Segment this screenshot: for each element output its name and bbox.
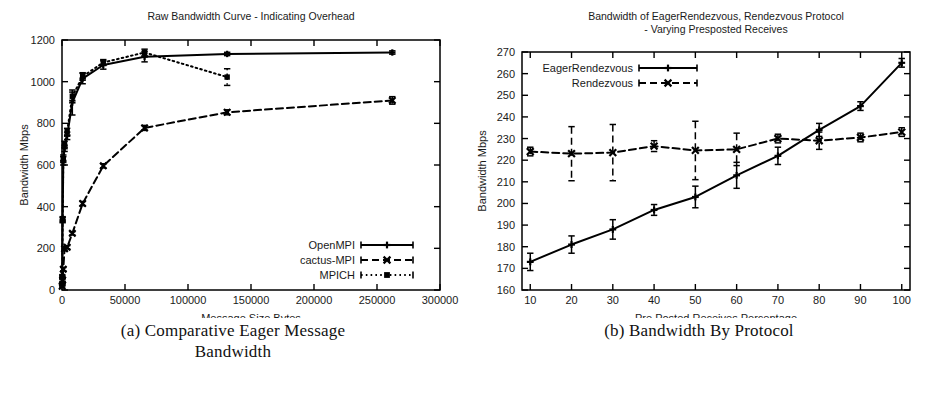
x-tick-label: 70 bbox=[772, 294, 784, 306]
x-axis-title: Pre Posted Receives Percentage bbox=[635, 312, 797, 318]
series-line bbox=[530, 63, 901, 262]
legend: EagerRendezvousRendezvous bbox=[542, 62, 697, 89]
x-tick-label: 10 bbox=[524, 294, 536, 306]
x-axis: 102030405060708090100 bbox=[524, 52, 911, 306]
x-tick-label: 80 bbox=[813, 294, 825, 306]
y-tick-label: 220 bbox=[497, 154, 515, 166]
legend-label-1: cactus-MPI bbox=[300, 254, 355, 266]
y-axis-title: Bandwidth Mbps bbox=[18, 124, 30, 206]
legend-label-2: MPICH bbox=[320, 269, 356, 281]
marker-square bbox=[224, 74, 229, 79]
x-tick-label: 0 bbox=[59, 294, 65, 306]
x-tick-label: 40 bbox=[648, 294, 660, 306]
x-tick-label: 100000 bbox=[170, 294, 207, 306]
marker-square bbox=[80, 74, 85, 79]
y-axis-title: Bandwidth Mbps bbox=[476, 130, 488, 212]
x-tick-label: 50 bbox=[689, 294, 701, 306]
y-tick-label: 400 bbox=[37, 201, 55, 213]
chart-a-plot-area: Raw Bandwidth Curve - Indicating Overhea… bbox=[0, 0, 466, 318]
legend-label-0: EagerRendezvous bbox=[542, 62, 633, 74]
caption-a-line-2: Bandwidth bbox=[33, 341, 433, 362]
marker-square bbox=[142, 50, 147, 55]
chart-a-svg: Raw Bandwidth Curve - Indicating Overhea… bbox=[0, 0, 466, 318]
chart-subtitle: - Varying Presposted Receives bbox=[644, 23, 787, 35]
marker-square bbox=[101, 60, 106, 65]
subfigure-b: Bandwidth of EagerRendezvous, Rendezvous… bbox=[466, 0, 932, 400]
y-tick-label: 160 bbox=[497, 284, 515, 296]
series-eagerrendezvous bbox=[527, 58, 905, 270]
chart-title: Bandwidth of EagerRendezvous, Rendezvous… bbox=[588, 10, 844, 22]
x-tick-label: 250000 bbox=[359, 294, 396, 306]
y-tick-label: 260 bbox=[497, 68, 515, 80]
x-tick-label: 90 bbox=[854, 294, 866, 306]
y-tick-label: 1000 bbox=[31, 76, 55, 88]
legend-label-0: OpenMPI bbox=[309, 239, 355, 251]
series-line bbox=[62, 53, 227, 284]
y-axis: 160170180190200210220230240250260270 bbox=[497, 46, 910, 296]
series-rendezvous bbox=[527, 121, 905, 180]
y-tick-label: 0 bbox=[49, 284, 55, 296]
marker-square bbox=[60, 274, 65, 279]
chart-title: Raw Bandwidth Curve - Indicating Overhea… bbox=[147, 10, 354, 22]
y-tick-label: 200 bbox=[497, 197, 515, 209]
series-mpich bbox=[59, 49, 230, 286]
x-tick-label: 30 bbox=[607, 294, 619, 306]
y-tick-label: 270 bbox=[497, 46, 515, 58]
chart-b-plot-area: Bandwidth of EagerRendezvous, Rendezvous… bbox=[466, 0, 932, 318]
x-tick-label: 200000 bbox=[296, 294, 333, 306]
x-axis: 050000100000150000200000250000300000 bbox=[59, 40, 458, 306]
caption-b: (b) Bandwidth By Protocol bbox=[499, 320, 899, 341]
y-tick-label: 180 bbox=[497, 241, 515, 253]
y-tick-label: 210 bbox=[497, 176, 515, 188]
marker-square bbox=[70, 94, 75, 99]
figure-row: Raw Bandwidth Curve - Indicating Overhea… bbox=[0, 0, 932, 400]
marker-square bbox=[384, 272, 390, 278]
x-tick-label: 50000 bbox=[110, 294, 141, 306]
caption-a-line-1: (a) Comparative Eager Message bbox=[33, 320, 433, 341]
y-tick-label: 190 bbox=[497, 219, 515, 231]
x-tick-label: 100 bbox=[893, 294, 911, 306]
marker-square bbox=[61, 156, 66, 161]
marker-square bbox=[62, 141, 67, 146]
marker-square bbox=[59, 281, 64, 286]
y-tick-label: 170 bbox=[497, 262, 515, 274]
y-tick-label: 800 bbox=[37, 117, 55, 129]
x-tick-label: 20 bbox=[565, 294, 577, 306]
series-line bbox=[530, 132, 901, 154]
y-tick-label: 240 bbox=[497, 111, 515, 123]
x-tick-label: 300000 bbox=[422, 294, 459, 306]
legend-label-1: Rendezvous bbox=[572, 77, 634, 89]
y-tick-label: 200 bbox=[37, 242, 55, 254]
y-tick-label: 230 bbox=[497, 133, 515, 145]
chart-b-svg: Bandwidth of EagerRendezvous, Rendezvous… bbox=[466, 0, 932, 318]
caption-a: (a) Comparative Eager Message Bandwidth bbox=[33, 320, 433, 363]
x-tick-label: 150000 bbox=[233, 294, 270, 306]
y-tick-label: 1200 bbox=[31, 34, 55, 46]
x-axis-title: Message Size Bytes bbox=[201, 312, 301, 318]
x-tick-label: 60 bbox=[731, 294, 743, 306]
legend: OpenMPIcactus-MPIMPICH bbox=[300, 239, 413, 281]
subfigure-a: Raw Bandwidth Curve - Indicating Overhea… bbox=[0, 0, 466, 400]
caption-b-line-1: (b) Bandwidth By Protocol bbox=[499, 320, 899, 341]
marker-square bbox=[64, 129, 69, 134]
plot-frame bbox=[62, 40, 440, 290]
y-tick-label: 250 bbox=[497, 89, 515, 101]
marker-square bbox=[60, 216, 65, 221]
y-tick-label: 600 bbox=[37, 159, 55, 171]
